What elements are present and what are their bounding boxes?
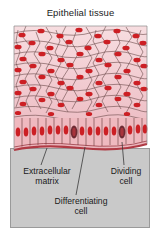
label-extracellular-matrix-line2: matrix <box>14 176 80 186</box>
label-differentiating-cell-line2: cell <box>46 206 116 216</box>
label-extracellular-matrix-line1: Extracellular <box>14 166 80 176</box>
label-differentiating-cell-line1: Differentiating <box>46 196 116 206</box>
label-dividing-cell: Dividing cell <box>103 166 149 186</box>
epithelial-tissue-figure: Epithelial tissue <box>0 0 161 241</box>
label-dividing-cell-line1: Dividing <box>103 166 149 176</box>
label-differentiating-cell: Differentiating cell <box>46 196 116 216</box>
label-extracellular-matrix: Extracellular matrix <box>14 166 80 186</box>
label-dividing-cell-line2: cell <box>103 176 149 186</box>
